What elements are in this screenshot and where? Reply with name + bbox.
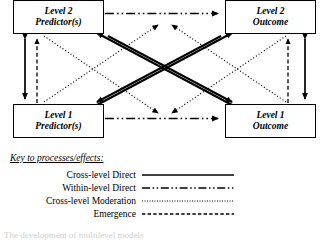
legend-rows: Cross-level Direct Within-level Direct C… [0, 168, 329, 220]
figure-canvas: Level 2 Predictor(s) Level 2 Outcome Lev… [0, 0, 329, 242]
legend-row-within-level-direct: Within-level Direct [0, 181, 329, 194]
node-level2-outcome[interactable]: Level 2 Outcome [225, 0, 316, 34]
legend-row-cross-level-direct: Cross-level Direct [0, 168, 329, 181]
node-level1-outcome-line2: Outcome [253, 121, 288, 133]
legend-row-emergence: Emergence [0, 207, 329, 220]
legend: Key to processes/effects: Cross-level Di… [0, 151, 329, 226]
node-level2-outcome-line1: Level 2 [256, 6, 284, 18]
legend-swatch-dashed [142, 209, 234, 219]
legend-row-cross-level-moderation: Cross-level Moderation [0, 194, 329, 207]
node-level1-outcome[interactable]: Level 1 Outcome [225, 104, 316, 138]
node-level1-predictor[interactable]: Level 1 Predictor(s) [13, 104, 104, 138]
legend-label-emergence: Emergence [0, 209, 142, 219]
edge-cross-level-l1o-to-l2p [97, 36, 221, 102]
node-level2-predictor[interactable]: Level 2 Predictor(s) [13, 0, 104, 34]
legend-title: Key to processes/effects: [10, 153, 104, 163]
edge-moderation-l1o-to-l2path [172, 25, 286, 102]
legend-swatch-solid [142, 170, 234, 180]
node-level1-outcome-line1: Level 1 [256, 110, 284, 122]
figure-caption: The development of multilevel models [4, 230, 329, 240]
edge-moderation-l2p-to-l1path [44, 36, 158, 113]
legend-swatch-dash-dot-dot [142, 183, 234, 193]
node-level2-predictor-line1: Level 2 [44, 6, 72, 18]
legend-label-within-level-direct: Within-level Direct [0, 183, 142, 193]
node-level1-predictor-line1: Level 1 [44, 110, 72, 122]
node-level1-predictor-line2: Predictor(s) [35, 121, 81, 133]
edge-moderation-l1p-to-l2path [44, 25, 158, 102]
legend-swatch-dotted [142, 196, 234, 206]
node-level2-predictor-line2: Predictor(s) [35, 17, 81, 29]
legend-label-cross-level-moderation: Cross-level Moderation [0, 196, 142, 206]
node-level2-outcome-line2: Outcome [253, 17, 288, 29]
legend-label-cross-level-direct: Cross-level Direct [0, 170, 142, 180]
